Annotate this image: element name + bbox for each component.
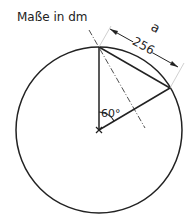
arrowhead-right: [170, 61, 178, 67]
arc-length-label: a: [149, 19, 163, 36]
extension-line-1: [99, 26, 111, 47]
arrowhead-left: [110, 29, 118, 35]
chord: [99, 47, 170, 88]
circle-sector-diagram: 256 a 60°: [0, 0, 194, 221]
angle-label: 60°: [101, 107, 121, 120]
